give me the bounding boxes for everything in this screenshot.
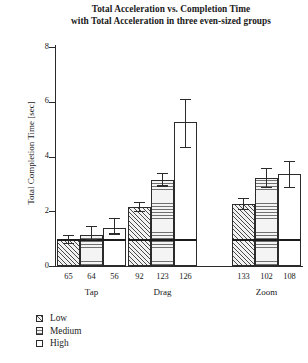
xtick-count-tap-medium: 64 — [80, 272, 103, 281]
errorbar-tap-low — [57, 235, 80, 270]
xtick-count-zoom-low: 133 — [232, 272, 255, 281]
y-tick-6 — [49, 102, 55, 103]
errorbar-drag-low — [128, 202, 151, 232]
legend-swatch-medium-icon — [36, 327, 43, 334]
errorbar-zoom-medium — [255, 168, 278, 214]
sub-line-zoom — [232, 239, 301, 241]
xtick-count-tap-low: 65 — [57, 272, 80, 281]
plot-area: 0 2 4 6 8 Total Completion Time [sec] — [0, 0, 308, 363]
legend-label-low: Low — [50, 312, 67, 325]
errorbar-drag-medium — [151, 173, 174, 208]
xtick-count-drag-medium: 123 — [151, 272, 174, 281]
xtick-count-drag-low: 92 — [128, 272, 151, 281]
errorbar-tap-medium — [80, 226, 103, 266]
sub-line-drag — [128, 239, 197, 241]
xtick-group-tap: Tap — [57, 287, 126, 297]
y-tick-8 — [49, 47, 55, 48]
errorbar-drag-high — [174, 99, 197, 150]
xtick-count-zoom-medium: 102 — [255, 272, 278, 281]
errorbar-zoom-high — [278, 161, 301, 216]
y-axis-line — [55, 45, 56, 267]
y-tick-2 — [49, 211, 55, 212]
errorbar-zoom-low — [232, 198, 255, 232]
y-axis-title: Total Completion Time [sec] — [26, 68, 36, 238]
legend-label-high: High — [50, 337, 69, 350]
legend-label-medium: Medium — [50, 325, 82, 338]
legend-swatch-high-icon — [36, 340, 43, 347]
xtick-count-drag-high: 126 — [174, 272, 197, 281]
errorbar-tap-high — [103, 218, 126, 263]
xtick-count-zoom-high: 108 — [278, 272, 301, 281]
chart-figure: Total Acceleration vs. Completion Time w… — [0, 0, 308, 363]
xtick-count-tap-high: 56 — [103, 272, 126, 281]
xtick-group-zoom: Zoom — [232, 287, 301, 297]
y-tick-4 — [49, 157, 55, 158]
xtick-group-drag: Drag — [128, 287, 197, 297]
y-tick-0 — [49, 266, 55, 267]
y-tick-label-8: 8 — [9, 43, 49, 51]
legend-swatch-low-icon — [36, 315, 43, 322]
y-tick-label-0: 0 — [9, 262, 49, 270]
